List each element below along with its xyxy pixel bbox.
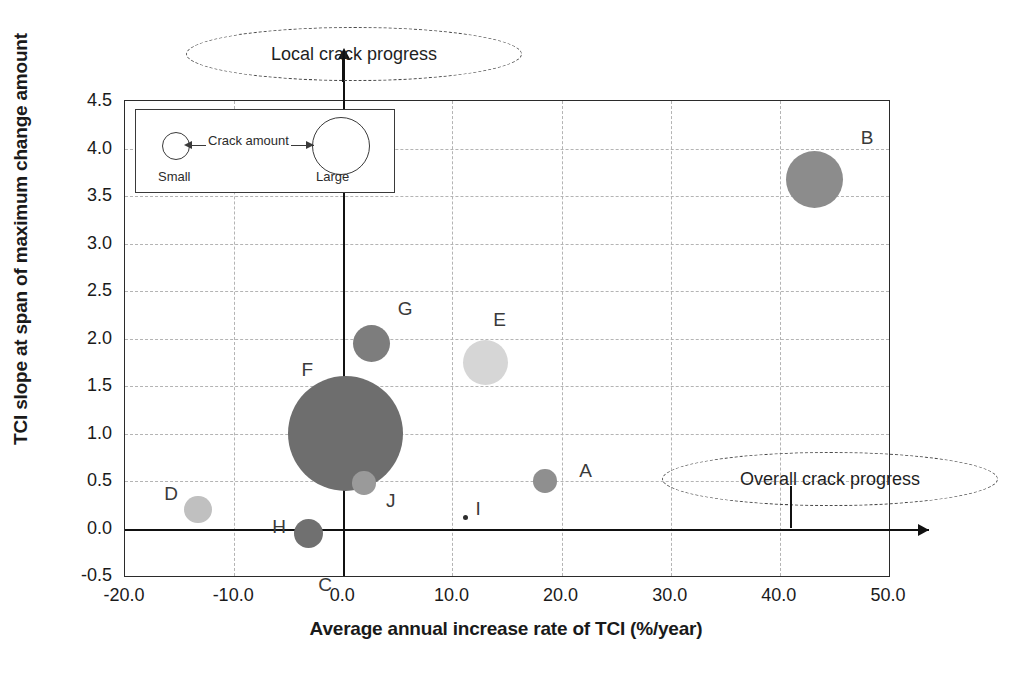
x-tick-label: 10.0 (411, 586, 491, 604)
bubble-g (353, 325, 390, 362)
legend-large-circle (312, 117, 370, 175)
y-tick-label: 1.0 (56, 424, 112, 442)
bubble-j (352, 471, 376, 495)
legend-arrow-left-head (184, 141, 192, 149)
bubble-label-i: I (476, 499, 481, 518)
y-tick-label: 0.0 (56, 519, 112, 537)
bubble-label-e: E (493, 310, 506, 329)
callout-overall-crack-progress: Overall crack progress (662, 452, 998, 506)
bubble-label-a: A (579, 461, 592, 480)
y-tick-label: 3.0 (56, 234, 112, 252)
legend-arrow-right-head (306, 141, 314, 149)
horizontal-gridline (125, 339, 889, 340)
y-tick-label: 1.5 (56, 376, 112, 394)
y-tick-label: 3.5 (56, 186, 112, 204)
x-tick-label: 50.0 (848, 586, 928, 604)
bubble-b (786, 151, 843, 208)
y-tick-label: 2.5 (56, 281, 112, 299)
callout-text: Overall crack progress (662, 452, 998, 506)
bubble-label-g: G (398, 299, 413, 318)
bubble-i (463, 515, 468, 520)
x-tick-label: 0.0 (302, 586, 382, 604)
bubble-d (184, 496, 211, 523)
zero-horizontal-axis (125, 529, 929, 531)
horizontal-gridline (125, 386, 889, 387)
y-tick-label: 4.5 (56, 91, 112, 109)
y-axis-title: TCI slope at span of maximum change amou… (10, 4, 32, 474)
x-tick-label: 30.0 (630, 586, 710, 604)
y-tick-label: 0.5 (56, 471, 112, 489)
bubble-size-legend: Crack amount Small Large (135, 109, 395, 193)
legend-large-label: Large (316, 170, 349, 183)
x-tick-label: -10.0 (193, 586, 273, 604)
bubble-c (294, 519, 323, 548)
bubble-label-j: J (386, 491, 396, 510)
bubble-f (288, 376, 404, 492)
x-tick-label: 20.0 (521, 586, 601, 604)
bubble-label-b: B (861, 128, 874, 147)
x-axis-title: Average annual increase rate of TCI (%/y… (124, 618, 888, 640)
callout-connector-right (790, 486, 792, 528)
bubble-e (463, 340, 508, 385)
bubble-label-d: D (164, 484, 178, 503)
chart-canvas: TCI slope at span of maximum change amou… (0, 0, 1028, 679)
bubble-label-f: F (301, 360, 313, 379)
horizontal-gridline (125, 434, 889, 435)
axis-arrow-right-icon (918, 524, 929, 536)
y-tick-label: -0.5 (56, 566, 112, 584)
bubble-label-h: H (272, 517, 286, 536)
x-tick-label: 40.0 (739, 586, 819, 604)
horizontal-gridline (125, 196, 889, 197)
bubble-a (533, 469, 557, 493)
horizontal-gridline (125, 244, 889, 245)
bubble-label-c: C (318, 575, 332, 594)
callout-local-crack-progress: Local crack progress (186, 27, 522, 81)
legend-arrow-label: Crack amount (206, 134, 291, 147)
horizontal-gridline (125, 291, 889, 292)
y-tick-label: 2.0 (56, 329, 112, 347)
callout-connector-top (342, 58, 344, 82)
x-tick-label: -20.0 (84, 586, 164, 604)
callout-text: Local crack progress (186, 27, 522, 81)
legend-small-label: Small (158, 170, 191, 183)
y-tick-label: 4.0 (56, 139, 112, 157)
